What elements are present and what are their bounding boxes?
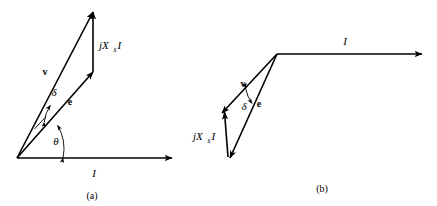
panel-a-jxsi-label-tail: I: [117, 39, 123, 51]
panel-a-jxsi-label: jX s I: [97, 39, 123, 54]
panel-a-caption: (a): [86, 190, 97, 202]
panel-b-jxsi-label: jX s I: [191, 130, 217, 145]
panel-a-e-label: e: [68, 96, 73, 107]
panel-a-delta-label: δ: [51, 86, 57, 98]
panel-a-theta-label: θ: [53, 135, 59, 147]
figure-canvas: v e δ θ jX s I I (a): [0, 0, 437, 206]
panel-b-jxsi-label-sub: s: [208, 136, 211, 145]
panel-b-e-phasor: [230, 54, 277, 158]
panel-b-jxsi-phasor: [225, 112, 229, 157]
panel-b-v-phasor: [222, 54, 277, 113]
panel-b: v e δ jX s I I (b): [191, 35, 422, 195]
panel-b-delta-label: δ: [241, 100, 247, 112]
panel-b-caption: (b): [316, 183, 328, 195]
panel-a-delta-arc: [44, 105, 50, 122]
panel-b-i-label: I: [342, 35, 348, 47]
panel-a-jxsi-label-main: jX: [97, 39, 110, 51]
panel-b-jxsi-label-tail: I: [211, 130, 217, 142]
panel-a-v-label: v: [43, 66, 48, 77]
phasor-figure: v e δ θ jX s I I (a): [0, 0, 437, 206]
panel-b-v-label: v: [241, 78, 246, 89]
panel-a-jxsi-label-sub: s: [114, 45, 117, 54]
panel-a: v e δ θ jX s I I (a): [17, 12, 172, 202]
panel-b-jxsi-label-main: jX: [191, 130, 204, 142]
panel-b-e-label: e: [257, 98, 262, 109]
panel-a-i-label: I: [91, 167, 97, 179]
